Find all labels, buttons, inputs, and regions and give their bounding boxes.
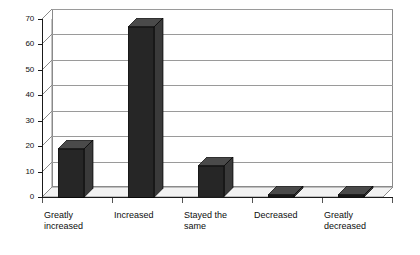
x-tick-0 <box>42 198 43 203</box>
bar-3 <box>268 186 305 199</box>
y-axis-label-70: 70 <box>8 15 34 23</box>
bar-2 <box>198 157 235 199</box>
x-tick-4 <box>322 198 323 203</box>
y-tick-20 <box>38 146 42 147</box>
y-axis-label-0: 0 <box>8 193 34 201</box>
gridline-40 <box>52 85 393 86</box>
bar-0 <box>58 140 95 199</box>
plot-side-wall <box>42 19 52 197</box>
y-axis-label-50: 50 <box>8 66 34 74</box>
y-tick-70 <box>38 19 42 20</box>
y-axis-label-40: 40 <box>8 91 34 99</box>
y-axis-label-30: 30 <box>8 117 34 125</box>
x-axis-category-label-1: Increased <box>114 210 180 221</box>
x-axis-category-label-4: Greatly decreased <box>324 210 394 232</box>
x-axis-category-label-3: Decreased <box>254 210 320 221</box>
gridline-60 <box>52 34 393 35</box>
y-tick-10 <box>38 172 42 173</box>
y-tick-40 <box>38 95 42 96</box>
gridline-70 <box>52 9 393 10</box>
x-tick-1 <box>112 198 113 203</box>
x-tick-2 <box>182 198 183 203</box>
gridline-30 <box>52 111 393 112</box>
y-axis-line <box>42 19 43 197</box>
gridline-20 <box>52 136 393 137</box>
gridline-50 <box>52 60 393 61</box>
y-tick-60 <box>38 44 42 45</box>
bar-1 <box>128 18 165 199</box>
x-tick-5 <box>392 198 393 203</box>
bar-chart: 70 60 50 40 30 20 10 0 Greatly increased… <box>0 0 420 255</box>
x-tick-3 <box>252 198 253 203</box>
y-axis-label-10: 10 <box>8 168 34 176</box>
y-axis-label-60: 60 <box>8 40 34 48</box>
y-axis-label-20: 20 <box>8 142 34 150</box>
x-axis-category-label-2: Stayed the same <box>184 210 250 232</box>
y-tick-30 <box>38 121 42 122</box>
y-tick-50 <box>38 70 42 71</box>
bar-4 <box>338 186 375 199</box>
x-axis-category-label-0: Greatly increased <box>44 210 110 232</box>
